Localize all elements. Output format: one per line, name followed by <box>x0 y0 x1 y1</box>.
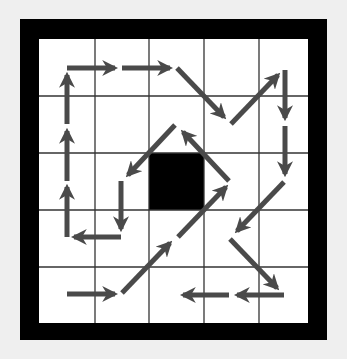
blocked-cell <box>149 153 204 210</box>
arrow-grid-diagram <box>0 0 347 359</box>
blocked-cells <box>149 153 204 210</box>
